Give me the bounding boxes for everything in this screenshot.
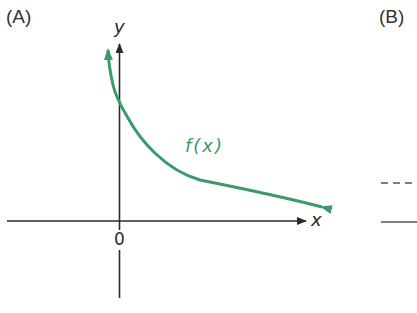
origin-label: 0 — [114, 231, 125, 248]
x-axis-label: x — [311, 211, 322, 229]
panel-a-label: (A) — [6, 7, 31, 26]
diagram-canvas — [0, 0, 417, 313]
function-label: f(x) — [185, 137, 224, 155]
function-curve — [108, 50, 322, 207]
panel-b-label: (B) — [379, 7, 404, 26]
y-axis-label: y — [114, 18, 125, 36]
